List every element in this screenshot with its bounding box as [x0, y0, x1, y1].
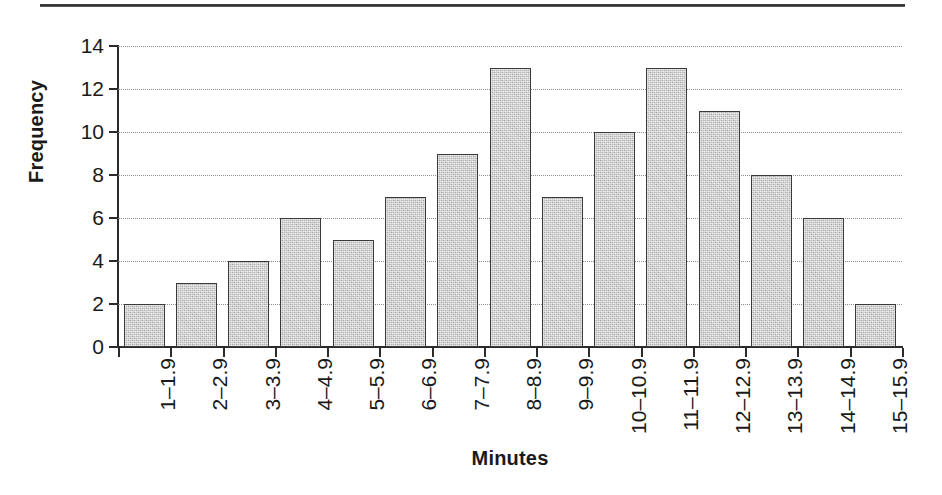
- y-axis-tick-mark: [109, 174, 118, 176]
- histogram-bar: [594, 132, 635, 347]
- x-axis-tick-mark: [902, 348, 904, 357]
- histogram-bar: [228, 261, 269, 347]
- y-axis-tick-label: 14: [58, 35, 104, 56]
- x-axis-tick-label: 8–8.9: [522, 358, 546, 478]
- x-axis-tick-label: 15–15.9: [888, 358, 912, 478]
- histogram-bar: [333, 240, 374, 348]
- y-axis-tick-label: 8: [58, 164, 104, 185]
- x-axis-tick-mark: [588, 348, 590, 357]
- x-axis-tick-mark: [536, 348, 538, 357]
- x-axis-tick-mark: [379, 348, 381, 357]
- y-axis-tick-mark: [109, 260, 118, 262]
- x-axis-tick-label: 5–5.9: [365, 358, 389, 478]
- y-axis-tick-label: 2: [58, 293, 104, 314]
- histogram-bar: [437, 154, 478, 348]
- x-axis-tick-label: 11–11.9: [679, 358, 703, 478]
- histogram-bar: [490, 68, 531, 348]
- y-axis-title: Frequency: [25, 52, 48, 212]
- histogram-bar: [124, 304, 165, 347]
- x-axis-tick-label: 1–1.9: [156, 358, 180, 478]
- x-axis-tick-mark: [693, 348, 695, 357]
- x-axis-tick-label: 4–4.9: [313, 358, 337, 478]
- x-axis-tick-label: 14–14.9: [836, 358, 860, 478]
- histogram-bar: [280, 218, 321, 347]
- y-axis-tick-mark: [109, 131, 118, 133]
- y-axis-tick-mark: [109, 346, 118, 348]
- histogram-bar: [855, 304, 896, 347]
- y-axis-tick-mark: [109, 303, 118, 305]
- y-axis-tick-label: 0: [58, 336, 104, 357]
- x-axis-tick-label: 6–6.9: [417, 358, 441, 478]
- x-axis-tick-mark: [850, 348, 852, 357]
- y-axis-tick-mark: [109, 88, 118, 90]
- x-axis-tick-mark: [797, 348, 799, 357]
- x-axis-tick-mark: [745, 348, 747, 357]
- x-axis-tick-mark: [275, 348, 277, 357]
- x-axis-tick-label: 7–7.9: [470, 358, 494, 478]
- y-axis-tick-labels: 02468101214: [52, 0, 104, 495]
- y-axis-tick-label: 6: [58, 207, 104, 228]
- x-axis-tick-label: 3–3.9: [261, 358, 285, 478]
- y-axis-tick-label: 10: [58, 121, 104, 142]
- histogram-bar: [385, 197, 426, 348]
- x-axis-tick-mark: [327, 348, 329, 357]
- histogram-bar: [542, 197, 583, 348]
- x-axis-tick-mark: [223, 348, 225, 357]
- x-axis-tick-label: 10–10.9: [627, 358, 651, 478]
- x-axis-tick-label: 9–9.9: [574, 358, 598, 478]
- x-axis-tick-label: 12–12.9: [731, 358, 755, 478]
- histogram-bar: [803, 218, 844, 347]
- x-axis-tick-mark: [432, 348, 434, 357]
- x-axis-tick-label: 13–13.9: [783, 358, 807, 478]
- histogram-bar: [699, 111, 740, 348]
- x-axis-tick-mark: [484, 348, 486, 357]
- histogram-figure: Frequency 02468101214 Minutes 1–1.92–2.9…: [0, 0, 942, 495]
- histogram-bar: [176, 283, 217, 348]
- y-axis-tick-mark: [109, 217, 118, 219]
- x-axis-tick-mark: [118, 348, 120, 357]
- y-axis-tick-label: 12: [58, 78, 104, 99]
- y-axis-tick-label: 4: [58, 250, 104, 271]
- histogram-bar: [646, 68, 687, 348]
- x-axis-tick-mark: [641, 348, 643, 357]
- gridline: [118, 46, 902, 47]
- x-axis-tick-mark: [170, 348, 172, 357]
- x-axis-tick-label: 2–2.9: [208, 358, 232, 478]
- histogram-bar: [751, 175, 792, 347]
- plot-area: [118, 46, 902, 347]
- y-axis-tick-mark: [109, 45, 118, 47]
